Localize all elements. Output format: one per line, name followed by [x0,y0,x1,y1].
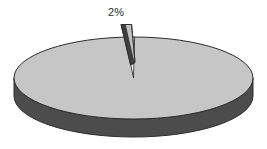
pie-chart-canvas [0,0,267,149]
data-label-exploded-slice: 2% [108,6,124,18]
pie-chart-figure: 2% [0,0,267,149]
